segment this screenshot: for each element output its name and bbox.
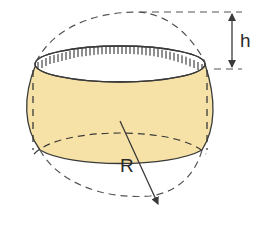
height-label: h xyxy=(240,30,251,51)
radius-label: R xyxy=(120,155,134,176)
sphere-zone-diagram: h R xyxy=(0,0,259,228)
